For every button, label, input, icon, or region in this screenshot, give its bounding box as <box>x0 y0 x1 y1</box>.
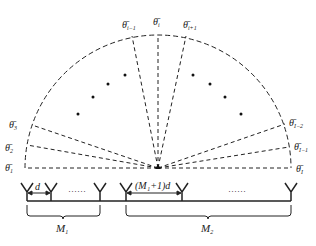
angle-label-2: θ̄2 <box>5 142 13 154</box>
antenna-icon <box>285 183 297 201</box>
angle-label-I: θ̄I <box>296 163 304 175</box>
angle-label-i-plus-1: θ̄i+1 <box>183 19 197 31</box>
ellipsis-dots <box>77 74 243 116</box>
spacing-label-m1-plus-1-d: (M₁+1)d <box>135 180 171 192</box>
ellipsis-subarray-1: …… <box>68 184 86 194</box>
subarray-label-m1: M1 <box>55 222 68 235</box>
angle-label-I-minus-1: θ̄I−1 <box>294 141 308 153</box>
angle-label-1: θ̄1 <box>5 162 13 174</box>
spacing-label-d: d <box>35 181 41 192</box>
diagram-canvas: θ̄1 θ̄2 θ̄3 θ̄i−1 θ̄i θ̄i+1 θ̄I−2 θ̄I−1 … <box>0 0 316 246</box>
brace-m2 <box>126 205 291 219</box>
angle-label-i: θ̄i <box>153 16 161 28</box>
angle-label-I-minus-2: θ̄I−2 <box>289 117 303 129</box>
antenna-icon <box>94 183 106 201</box>
brace-m1 <box>27 205 100 219</box>
angle-label-3: θ̄3 <box>9 119 17 131</box>
subarray-label-m2: M2 <box>200 222 213 235</box>
angle-label-i-minus-1: θ̄i−1 <box>122 19 136 31</box>
ellipsis-subarray-2: …… <box>228 184 246 194</box>
center-point <box>155 164 161 169</box>
angle-rays <box>25 35 291 168</box>
